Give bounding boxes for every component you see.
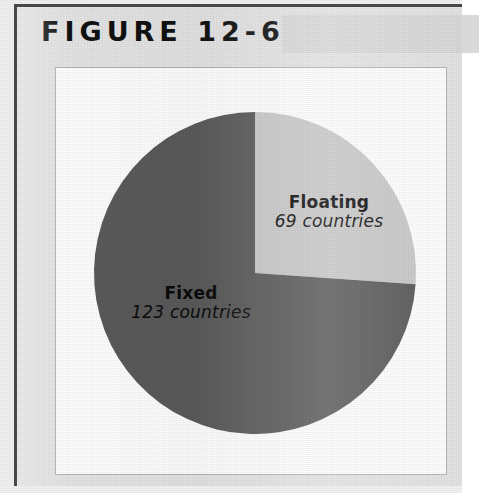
pie-slices — [94, 112, 416, 434]
pie-label-fixed-value: 123 countries — [116, 303, 266, 321]
figure-title: FIGURE 12-6 — [41, 15, 285, 49]
figure-plate: FIGURE 12-6 Floating 69 countries Fixed … — [17, 7, 462, 486]
pie-label-fixed-name: Fixed — [116, 284, 266, 302]
header-band — [282, 15, 479, 53]
chart-panel: Floating 69 countries Fixed 123 countrie… — [55, 67, 447, 475]
pie-chart-svg — [56, 68, 448, 476]
pie-label-fixed: Fixed 123 countries — [116, 284, 266, 322]
pie-label-floating: Floating 69 countries — [254, 193, 404, 231]
pie-label-floating-name: Floating — [254, 193, 404, 211]
pie-label-floating-value: 69 countries — [254, 212, 404, 230]
pie-chart: Floating 69 countries Fixed 123 countrie… — [56, 68, 446, 474]
